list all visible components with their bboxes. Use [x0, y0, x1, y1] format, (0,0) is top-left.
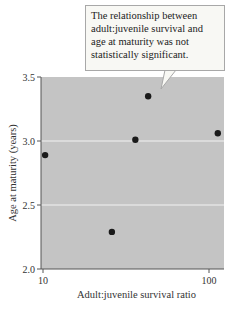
x-tick-label: 10 [38, 275, 48, 286]
data-point [42, 152, 48, 158]
x-axis-label: Adult:juvenile survival ratio [77, 289, 196, 300]
y-tick-label: 2.5 [23, 200, 36, 211]
plot-area [41, 77, 224, 269]
y-axis-label: Age at maturity (years) [7, 124, 19, 222]
data-point [215, 130, 221, 136]
y-tick-label: 2.0 [23, 264, 36, 275]
data-point [145, 93, 151, 99]
annotation-text: The relationship between adult:juvenile … [85, 5, 225, 71]
x-tick-label: 100 [202, 275, 217, 286]
data-point [109, 229, 115, 235]
data-point [132, 137, 138, 143]
y-tick-label: 3.5 [23, 72, 36, 83]
y-tick-label: 3.0 [23, 136, 36, 147]
